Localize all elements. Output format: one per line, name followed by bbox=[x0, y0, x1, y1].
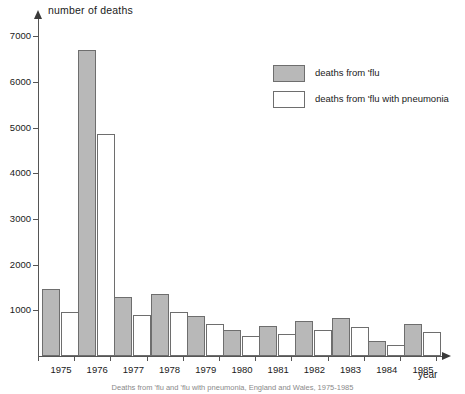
bar-1980-series-2 bbox=[242, 336, 260, 356]
bar-1975-series-1 bbox=[42, 289, 60, 356]
y-tick-label-1000: 1000 bbox=[3, 305, 31, 314]
x-tick-10 bbox=[400, 356, 401, 361]
x-tick-0 bbox=[38, 356, 39, 361]
bar-1979-series-2 bbox=[206, 324, 224, 356]
x-tick-11 bbox=[436, 356, 437, 361]
bar-1976-series-2 bbox=[97, 134, 115, 356]
bar-1985-series-2 bbox=[423, 332, 441, 356]
bar-chart: number of deaths year 100020003000400050… bbox=[0, 0, 465, 394]
x-tick-label-1985: 1985 bbox=[397, 364, 449, 375]
bar-group-1980 bbox=[223, 18, 261, 356]
legend-swatch-flu-pneumonia bbox=[273, 91, 305, 108]
x-tick-1 bbox=[74, 356, 75, 361]
x-tick-7 bbox=[291, 356, 292, 361]
y-tick-label-4000: 4000 bbox=[3, 168, 31, 177]
bar-group-1985 bbox=[404, 18, 442, 356]
legend-label-flu: deaths from 'flu bbox=[315, 67, 380, 78]
bar-1977-series-1 bbox=[114, 297, 132, 356]
bar-group-1979 bbox=[187, 18, 225, 356]
bar-group-1977 bbox=[114, 18, 152, 356]
x-tick-9 bbox=[364, 356, 365, 361]
bar-1980-series-1 bbox=[223, 330, 241, 356]
bar-1982-series-2 bbox=[314, 330, 332, 356]
bar-1985-series-1 bbox=[404, 324, 422, 356]
bar-1983-series-1 bbox=[332, 318, 350, 356]
x-tick-2 bbox=[110, 356, 111, 361]
x-axis-line bbox=[38, 356, 443, 357]
plot-area bbox=[38, 18, 443, 356]
y-axis-title: number of deaths bbox=[48, 4, 133, 16]
legend-label-flu-pneumonia: deaths from 'flu with pneumonia bbox=[315, 93, 449, 104]
y-tick-label-6000: 6000 bbox=[3, 77, 31, 86]
y-tick-label-5000: 5000 bbox=[3, 123, 31, 132]
y-tick-label-3000: 3000 bbox=[3, 214, 31, 223]
bar-1978-series-2 bbox=[170, 312, 188, 356]
y-tick-label-2000: 2000 bbox=[3, 260, 31, 269]
bar-1981-series-1 bbox=[259, 326, 277, 356]
bar-1979-series-1 bbox=[187, 316, 205, 356]
bar-1976-series-1 bbox=[78, 50, 96, 356]
bar-1978-series-1 bbox=[151, 294, 169, 356]
bar-1982-series-1 bbox=[295, 321, 313, 356]
bar-1981-series-2 bbox=[278, 334, 296, 356]
x-tick-5 bbox=[219, 356, 220, 361]
x-axis-arrow-icon bbox=[442, 352, 451, 360]
x-tick-8 bbox=[328, 356, 329, 361]
bar-1983-series-2 bbox=[351, 327, 369, 356]
legend-swatch-flu bbox=[273, 65, 305, 82]
x-tick-3 bbox=[147, 356, 148, 361]
x-tick-4 bbox=[183, 356, 184, 361]
chart-caption: Deaths from 'flu and 'flu with pneumonia… bbox=[0, 383, 465, 392]
bar-group-1975 bbox=[42, 18, 80, 356]
bar-1975-series-2 bbox=[61, 312, 79, 356]
y-tick-label-7000: 7000 bbox=[3, 31, 31, 40]
x-tick-6 bbox=[255, 356, 256, 361]
bar-1984-series-1 bbox=[368, 341, 386, 356]
bar-group-1976 bbox=[78, 18, 116, 356]
bar-group-1978 bbox=[151, 18, 189, 356]
bar-1977-series-2 bbox=[133, 315, 151, 356]
bar-1984-series-2 bbox=[387, 345, 405, 356]
